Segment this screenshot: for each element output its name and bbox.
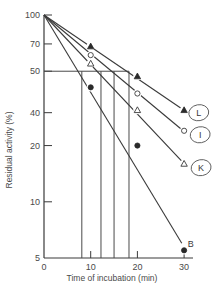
y-tick-label: 100 (25, 10, 40, 20)
data-point-B (135, 143, 140, 148)
y-tick-label: 70 (30, 39, 40, 49)
data-point-B (88, 85, 93, 90)
series-label-L: L (196, 108, 201, 118)
half-life-reference-lines (44, 71, 129, 258)
series-label-K: K (198, 163, 204, 173)
x-ticks: 0102030 (41, 251, 189, 272)
data-markers (87, 42, 189, 254)
y-tick-label: 40 (30, 108, 40, 118)
series-label-B: B (188, 239, 194, 249)
data-point-I (182, 128, 187, 133)
series-line-B (44, 15, 182, 243)
y-tick-label: 50 (30, 66, 40, 76)
x-tick-label: 20 (132, 262, 142, 272)
y-tick-label: 10 (30, 197, 40, 207)
chart: 10070504020105 0102030 LIKB Time of incu… (0, 0, 223, 295)
x-tick-label: 10 (86, 262, 96, 272)
y-ticks: 10070504020105 (25, 10, 52, 263)
x-axis-title: Time of incubation (min) (67, 273, 158, 283)
y-tick-label: 5 (35, 253, 40, 263)
data-point-I (88, 53, 93, 58)
data-point-B (182, 248, 187, 253)
series-line-L (44, 15, 182, 109)
x-tick-label: 0 (41, 262, 46, 272)
y-tick-label: 20 (30, 141, 40, 151)
x-tick-label: 30 (179, 262, 189, 272)
data-point-I (135, 91, 140, 96)
series-label-I: I (199, 130, 202, 140)
y-axis-title: Residual activity (%) (4, 111, 14, 188)
series-labels: LIKB (188, 103, 213, 249)
